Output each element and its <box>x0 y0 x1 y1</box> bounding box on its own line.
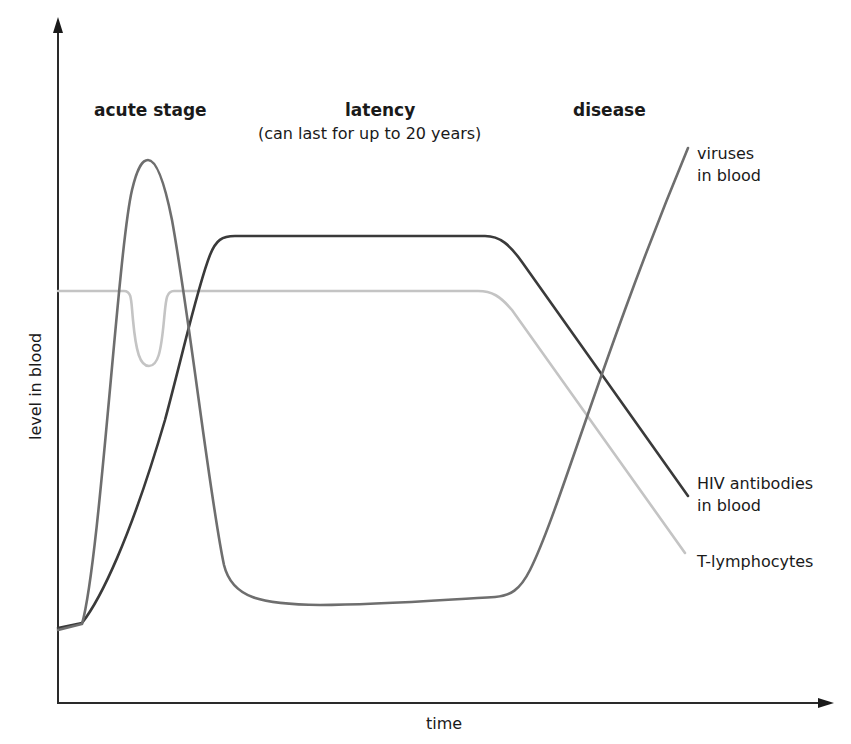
viruses-label-line1: viruses <box>697 143 761 165</box>
antibodies-label-line1: HIV antibodies <box>697 473 813 495</box>
viruses-curve <box>58 148 688 630</box>
antibodies-curve <box>58 236 688 628</box>
antibodies-label: HIV antibodies in blood <box>697 473 813 517</box>
y-axis-label: level in blood <box>26 333 45 440</box>
antibodies-label-line2: in blood <box>697 495 813 517</box>
viruses-label: viruses in blood <box>697 143 761 187</box>
y-axis-arrow-icon <box>53 17 63 33</box>
x-axis-label: time <box>426 714 462 733</box>
x-axis-arrow-icon <box>818 698 834 708</box>
stage-label-latency: latency <box>345 100 415 120</box>
tlymphocytes-curve <box>58 291 685 553</box>
tlymphocytes-label: T-lymphocytes <box>697 551 813 573</box>
stage-latency-note: (can last for up to 20 years) <box>258 124 481 143</box>
stage-label-acute: acute stage <box>94 100 207 120</box>
stage-label-disease: disease <box>573 100 646 120</box>
viruses-label-line2: in blood <box>697 165 761 187</box>
